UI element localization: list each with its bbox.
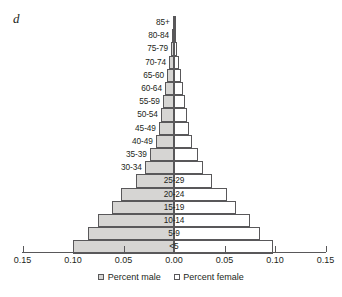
- x-axis-tick: [124, 246, 125, 252]
- pyramid-row: 15-19: [0, 201, 342, 214]
- pyramid-row: 25-29: [0, 174, 342, 187]
- pyramid-row: 10-14: [0, 214, 342, 227]
- pyramid-row: 80-84: [0, 29, 342, 42]
- bar-female: [174, 135, 192, 148]
- age-group-label: 70-74: [145, 56, 168, 69]
- pyramid-row: 70-74: [0, 56, 342, 69]
- age-group-label: 40-49: [132, 135, 155, 148]
- pyramid-row: 65-60: [0, 69, 342, 82]
- age-group-label: 75-79: [147, 42, 170, 55]
- x-axis-tick: [23, 246, 24, 252]
- x-axis-tick: [174, 246, 175, 252]
- bar-female: [174, 108, 187, 121]
- bar-female: [174, 69, 181, 82]
- age-group-label: 85+: [156, 16, 172, 29]
- x-axis-line: [22, 252, 326, 253]
- legend-label-male: Percent male: [108, 272, 161, 282]
- age-group-label: 65-60: [143, 69, 166, 82]
- pyramid-row: 20-24: [0, 188, 342, 201]
- legend-swatch-female-icon: [174, 274, 180, 280]
- bar-male: [156, 135, 174, 148]
- pyramid-row: 55-59: [0, 95, 342, 108]
- age-group-label: 80-84: [148, 29, 171, 42]
- bar-female: [174, 161, 203, 174]
- x-axis-tick: [275, 246, 276, 252]
- bar-male: [163, 95, 174, 108]
- legend-swatch-male-icon: [98, 274, 104, 280]
- bar-female: [174, 95, 185, 108]
- legend-label-female: Percent female: [183, 272, 244, 282]
- bar-male: [165, 82, 174, 95]
- pyramid-row: 60-64: [0, 82, 342, 95]
- population-pyramid-figure: d 85+80-8475-7970-7465-6060-6455-5950-54…: [0, 0, 342, 297]
- legend-entry-male: Percent male: [98, 272, 161, 282]
- legend-entry-female: Percent female: [174, 272, 244, 282]
- age-group-label: 55-59: [139, 95, 162, 108]
- pyramid-row: 35-39: [0, 148, 342, 161]
- bar-male: [150, 148, 174, 161]
- bar-female: [174, 16, 176, 29]
- x-axis-tick: [73, 246, 74, 252]
- age-group-label: 35-39: [126, 148, 149, 161]
- x-axis-tick: [326, 246, 327, 252]
- pyramid-row: 30-34: [0, 161, 342, 174]
- bar-female: [174, 42, 177, 55]
- age-group-label: 20-24: [157, 188, 191, 201]
- plot-area: 85+80-8475-7970-7465-6060-6455-5950-5445…: [0, 0, 342, 252]
- age-group-label: 5-9: [157, 227, 191, 240]
- age-group-label: 60-64: [141, 82, 164, 95]
- chart-legend: Percent male Percent female: [0, 272, 342, 282]
- bar-female: [174, 122, 189, 135]
- bar-female: [174, 148, 198, 161]
- x-axis-tick-label: 0.15: [14, 255, 32, 265]
- x-axis-tick: [225, 246, 226, 252]
- x-axis-tick-label: 0.15: [317, 255, 335, 265]
- x-axis-tick-label: 0.10: [64, 255, 82, 265]
- x-axis-tick-label: 0.10: [266, 255, 284, 265]
- x-axis-tick-label: 0.05: [216, 255, 234, 265]
- bar-male: [161, 108, 174, 121]
- age-group-label: 10-14: [157, 214, 191, 227]
- age-group-label: 25-29: [157, 174, 191, 187]
- pyramid-row: 50-54: [0, 108, 342, 121]
- x-axis-tick-label: 0.00: [165, 255, 183, 265]
- age-group-label: 50-54: [137, 108, 160, 121]
- bar-female: [174, 56, 179, 69]
- pyramid-row: 85+: [0, 16, 342, 29]
- age-group-label: 15-19: [157, 201, 191, 214]
- pyramid-row: 45-49: [0, 122, 342, 135]
- bar-male: [159, 122, 174, 135]
- bar-male: [167, 69, 174, 82]
- bar-male: [145, 161, 174, 174]
- bar-female: [174, 82, 183, 95]
- pyramid-row: 5-9: [0, 227, 342, 240]
- age-group-label: 30-34: [121, 161, 144, 174]
- bar-female: [174, 29, 176, 42]
- pyramid-row: 75-79: [0, 42, 342, 55]
- pyramid-row: 40-49: [0, 135, 342, 148]
- x-axis-tick-label: 0.05: [115, 255, 133, 265]
- age-group-label: 45-49: [135, 122, 158, 135]
